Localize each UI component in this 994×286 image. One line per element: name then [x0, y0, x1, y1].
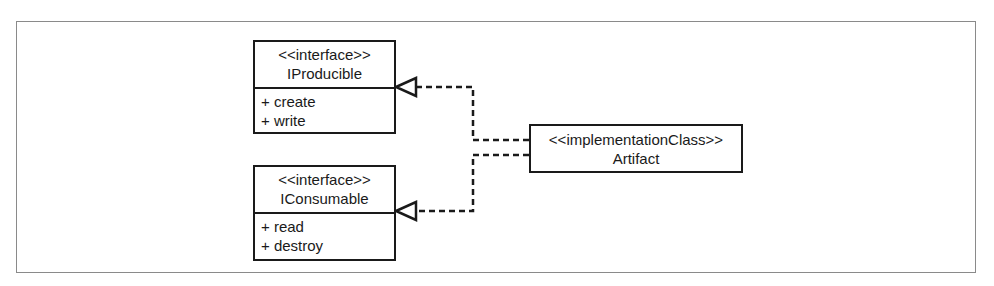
stereotype-label: <<implementationClass>> [531, 130, 741, 149]
interface-name: IConsumable [255, 189, 394, 208]
stereotype-label: <<interface>> [255, 45, 394, 64]
interface-box-iproducible: <<interface>> IProducible + create + wri… [253, 40, 396, 134]
realization-arrowhead-iconsumable [396, 202, 416, 220]
operations-compartment: + read + destroy [255, 212, 394, 255]
class-name: Artifact [531, 149, 741, 168]
realization-arrowhead-iproducible [396, 78, 416, 96]
interface-box-iconsumable: <<interface>> IConsumable + read + destr… [253, 165, 396, 261]
stereotype-label: <<interface>> [255, 170, 394, 189]
interface-name: IProducible [255, 64, 394, 83]
operations-compartment: + create + write [255, 87, 394, 130]
realization-line-iconsumable [416, 155, 529, 211]
operation-destroy: + destroy [261, 236, 394, 255]
class-header: <<implementationClass>> Artifact [531, 126, 741, 168]
realization-line-iproducible [416, 87, 529, 140]
interface-header: <<interface>> IConsumable [255, 167, 394, 212]
operation-create: + create [261, 92, 394, 111]
implementation-class-box-artifact: <<implementationClass>> Artifact [529, 124, 743, 173]
realization-connectors [0, 0, 994, 286]
interface-header: <<interface>> IProducible [255, 42, 394, 87]
operation-write: + write [261, 111, 394, 130]
operation-read: + read [261, 217, 394, 236]
